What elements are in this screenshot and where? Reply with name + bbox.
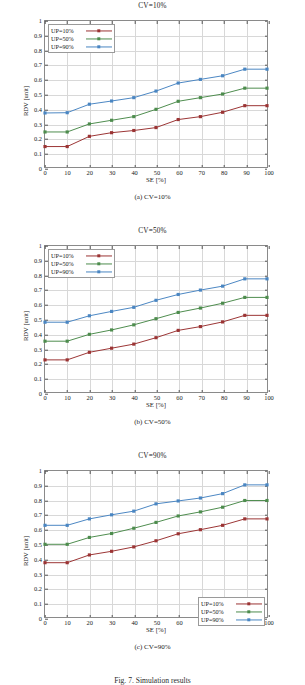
data-point-marker xyxy=(88,536,91,539)
legend-marker xyxy=(97,45,100,48)
y-tick-label: 0.5 xyxy=(34,92,42,98)
legend-marker xyxy=(97,254,100,257)
legend-item: UP=10% xyxy=(201,600,262,608)
chart-legend-c: UP=10%UP=50%UP=90% xyxy=(198,597,265,626)
chart-panel-a: CV=10%RDV [unit]00.10.20.30.40.50.60.70.… xyxy=(0,0,305,225)
data-point-marker xyxy=(132,545,135,548)
data-point-marker xyxy=(199,325,202,328)
plot-area-c: RDV [unit]00.10.20.30.40.50.60.70.80.910… xyxy=(0,462,305,640)
data-point-marker xyxy=(265,499,268,502)
data-point-marker xyxy=(154,539,157,542)
y-tick-label: 1 xyxy=(39,18,42,24)
subplot-caption-a: (a) CV=10% xyxy=(0,190,305,204)
data-point-marker xyxy=(66,145,69,148)
data-point-marker xyxy=(154,299,157,302)
y-tick-label: 0.8 xyxy=(34,497,42,503)
legend-swatch xyxy=(86,43,112,51)
data-point-marker xyxy=(43,321,46,324)
data-point-marker xyxy=(265,68,268,71)
legend-marker xyxy=(247,602,250,605)
data-point-marker xyxy=(243,517,246,520)
legend-label: UP=90% xyxy=(201,616,234,624)
data-point-marker xyxy=(243,87,246,90)
data-point-marker xyxy=(132,323,135,326)
data-point-marker xyxy=(154,90,157,93)
chart-panel-b: CV=50%RDV [unit]00.10.20.30.40.50.60.70.… xyxy=(0,225,305,450)
legend-swatch xyxy=(86,260,112,268)
data-point-marker xyxy=(132,306,135,309)
data-point-marker xyxy=(243,483,246,486)
data-point-marker xyxy=(43,340,46,343)
data-point-marker xyxy=(221,320,224,323)
legend-item: UP=50% xyxy=(51,35,112,43)
data-point-marker xyxy=(66,561,69,564)
data-point-marker xyxy=(221,302,224,305)
data-point-marker xyxy=(132,343,135,346)
legend-swatch xyxy=(86,252,112,260)
legend-label: UP=90% xyxy=(51,268,84,276)
y-tick-label: 0.4 xyxy=(34,557,42,563)
data-point-marker xyxy=(265,483,268,486)
legend-marker xyxy=(247,618,250,621)
legend-swatch xyxy=(86,35,112,43)
data-point-marker xyxy=(66,358,69,361)
data-point-marker xyxy=(265,314,268,317)
y-tick-label: 1 xyxy=(39,468,42,474)
x-tick-mark xyxy=(269,21,270,24)
data-point-marker xyxy=(221,506,224,509)
y-tick-label: 1 xyxy=(39,243,42,249)
chart-legend-a: UP=10%UP=50%UP=90% xyxy=(48,24,115,53)
data-point-marker xyxy=(132,510,135,513)
data-point-marker xyxy=(88,351,91,354)
data-point-marker xyxy=(66,111,69,114)
data-point-marker xyxy=(88,122,91,125)
data-point-marker xyxy=(243,296,246,299)
legend-swatch xyxy=(236,608,262,616)
x-tick-mark xyxy=(269,615,270,618)
y-tick-label: 0.5 xyxy=(34,542,42,548)
data-point-marker xyxy=(88,553,91,556)
y-tick-label: 0.2 xyxy=(34,586,42,592)
data-point-marker xyxy=(154,108,157,111)
chart-title-a: CV=10% xyxy=(0,0,305,12)
y-tick-label: 0.4 xyxy=(34,107,42,113)
data-point-marker xyxy=(88,135,91,138)
data-point-marker xyxy=(221,111,224,114)
x-tick-mark xyxy=(269,165,270,168)
legend-swatch xyxy=(236,616,262,624)
data-point-marker xyxy=(177,118,180,121)
data-point-marker xyxy=(177,100,180,103)
data-point-marker xyxy=(221,74,224,77)
data-point-marker xyxy=(110,550,113,553)
data-point-marker xyxy=(110,513,113,516)
legend-label: UP=90% xyxy=(51,43,84,51)
data-point-marker xyxy=(265,277,268,280)
data-point-marker xyxy=(43,111,46,114)
data-point-marker xyxy=(43,130,46,133)
legend-item: UP=10% xyxy=(51,252,112,260)
y-tick-label: 0.8 xyxy=(34,272,42,278)
y-axis-label-b: RDV [unit] xyxy=(22,311,29,341)
chart-title-b: CV=50% xyxy=(0,225,305,237)
y-tick-label: 0.6 xyxy=(34,302,42,308)
data-point-marker xyxy=(243,314,246,317)
data-point-marker xyxy=(154,502,157,505)
x-axis-label-a: SE [%] xyxy=(44,176,268,183)
data-point-marker xyxy=(88,103,91,106)
data-point-marker xyxy=(88,314,91,317)
y-tick-label: 0.3 xyxy=(34,571,42,577)
legend-marker xyxy=(97,270,100,273)
legend-label: UP=10% xyxy=(51,27,84,35)
data-point-marker xyxy=(43,358,46,361)
y-tick-label: 0.3 xyxy=(34,121,42,127)
x-axis-label-b: SE [%] xyxy=(44,401,268,408)
y-tick-label: 0.3 xyxy=(34,346,42,352)
y-tick-label: 0.4 xyxy=(34,332,42,338)
data-point-marker xyxy=(88,333,91,336)
data-point-marker xyxy=(199,306,202,309)
y-tick-label: 0.7 xyxy=(34,62,42,68)
y-tick-label: 0.7 xyxy=(34,512,42,518)
data-point-marker xyxy=(154,336,157,339)
series-up90 xyxy=(43,277,268,324)
data-point-marker xyxy=(199,96,202,99)
